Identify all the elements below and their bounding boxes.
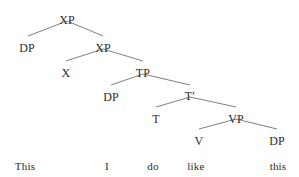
tree-node-dp-subj: DP — [103, 91, 119, 103]
syntax-tree-diagram: XPDPXPXTPDPTʹTVPVDP ThisIdolikethis — [0, 0, 299, 177]
tree-node-t-bar: Tʹ — [185, 90, 195, 102]
tree-node-t-head: T — [152, 113, 160, 125]
tree-node-tp: TP — [136, 67, 150, 79]
tree-node-xp-root: XP — [59, 14, 75, 26]
tree-node-dp-obj: DP — [269, 135, 285, 147]
tree-node-x-head: X — [62, 67, 71, 79]
tree-node-dp-spec: DP — [19, 42, 35, 54]
terminal-word-this-2: this — [270, 161, 287, 172]
terminal-word-like: like — [187, 161, 204, 172]
tree-branch — [190, 97, 236, 107]
terminal-word-this-1: This — [15, 161, 35, 172]
terminal-word-i: I — [105, 161, 109, 172]
tree-node-v-head: V — [195, 135, 204, 147]
terminal-word-do: do — [147, 161, 158, 172]
tree-node-xp-bar: XP — [95, 42, 111, 54]
tree-branch-lines — [0, 0, 299, 177]
tree-node-vp: VP — [228, 113, 244, 125]
